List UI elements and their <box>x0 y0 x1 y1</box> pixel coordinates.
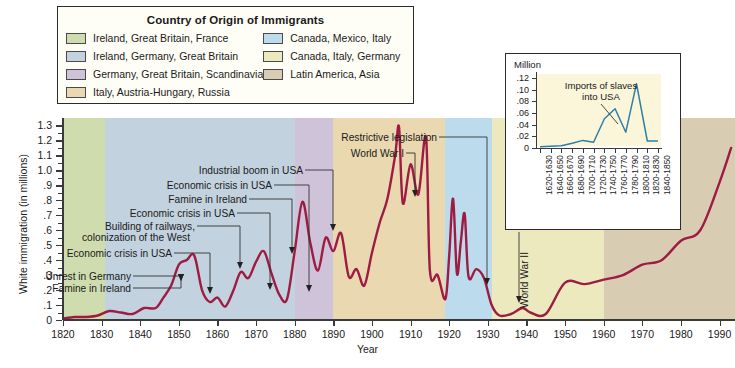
x-axis-tick-label: 1830 <box>90 328 113 340</box>
legend-swatch <box>66 51 86 62</box>
legend-swatch <box>263 69 283 80</box>
annotation-famine-in-ireland-2: Famine in Ireland <box>0 194 247 206</box>
legend-item-label: Latin America, Asia <box>290 69 379 80</box>
annotation-imports-of-slaves: Imports of slaves into USA <box>558 80 644 102</box>
x-axis-tick-label: 1890 <box>322 328 345 340</box>
legend-item-label: Germany, Great Britain, Scandinavia <box>93 69 263 80</box>
x-axis-tick-label: 1930 <box>476 328 499 340</box>
x-axis-tick <box>720 320 721 326</box>
y-axis-tick-label: 1.3 <box>28 119 52 131</box>
x-axis-tick <box>449 320 450 326</box>
legend-item-label: Canada, Mexico, Italy <box>290 33 391 44</box>
x-axis-tick-label: 1940 <box>515 328 538 340</box>
x-axis-tick <box>488 320 489 326</box>
x-axis-tick <box>604 320 605 326</box>
legend-swatch <box>263 33 283 44</box>
y-axis-minor-tick <box>58 313 62 314</box>
legend-item: Ireland, Germany, Great Britain <box>66 50 263 63</box>
x-axis-tick <box>295 320 296 326</box>
legend-column-right: Canada, Mexico, Italy Canada, Italy, Ger… <box>263 32 405 99</box>
x-axis-tick <box>333 320 334 326</box>
x-axis-tick-label: 1820 <box>51 328 74 340</box>
x-axis-tick-label: 1980 <box>669 328 692 340</box>
x-axis-tick-label: 1920 <box>438 328 461 340</box>
legend-item-label: Ireland, Germany, Great Britain <box>93 51 238 62</box>
y-axis-tick-label: .1 <box>28 299 52 311</box>
x-axis-tick <box>102 320 103 326</box>
annotation-world-war-i: World War I <box>0 148 404 160</box>
x-axis-tick <box>372 320 373 326</box>
legend-box: Country of Origin of Immigrants Ireland,… <box>57 6 414 104</box>
y-axis-minor-tick <box>58 268 62 269</box>
x-axis-tick-label: 1870 <box>244 328 267 340</box>
y-axis-minor-tick <box>58 163 62 164</box>
annotation-colonization-of-the-west: colonization of the West <box>0 232 190 244</box>
annotation-industrial-boom-in-usa: Industrial boom in USA <box>0 165 303 177</box>
y-axis-tick <box>56 125 62 126</box>
x-axis-tick <box>256 320 257 326</box>
legend-item: Ireland, Great Britain, France <box>66 32 263 45</box>
annotation-imports-line1: Imports of slaves <box>565 80 638 91</box>
y-axis-tick <box>56 260 62 261</box>
x-axis-tick <box>565 320 566 326</box>
legend-swatch <box>66 69 86 80</box>
legend-item-label: Canada, Italy, Germany <box>290 51 400 62</box>
legend-item-label: Italy, Austria-Hungary, Russia <box>93 87 230 98</box>
x-axis-tick <box>179 320 180 326</box>
x-axis-tick <box>63 320 64 326</box>
x-axis-line <box>63 319 735 321</box>
y-axis-tick-label: 0 <box>28 314 52 326</box>
x-axis-title: Year <box>0 343 735 355</box>
annotation-imports-line2: into USA <box>582 91 620 102</box>
y-axis-tick <box>56 305 62 306</box>
annotation-unrest-in-germany: Unrest in Germany <box>0 271 131 283</box>
x-axis-tick <box>642 320 643 326</box>
x-axis-tick-label: 1880 <box>283 328 306 340</box>
legend-columns: Ireland, Great Britain, France Ireland, … <box>58 32 413 99</box>
x-axis-tick <box>411 320 412 326</box>
y-axis-tick <box>56 245 62 246</box>
annotation-economic-crisis-in-usa-1: Economic crisis in USA <box>0 248 172 260</box>
legend-title: Country of Origin of Immigrants <box>58 14 413 26</box>
x-axis-tick <box>140 320 141 326</box>
legend-swatch <box>263 51 283 62</box>
x-axis-tick-label: 1950 <box>553 328 576 340</box>
x-axis-tick <box>526 320 527 326</box>
x-axis-tick-label: 1860 <box>206 328 229 340</box>
inset-chart-slave-imports: Million 0.02.04.06.08.10.12 1620-1630164… <box>505 53 681 230</box>
legend-item: Italy, Austria-Hungary, Russia <box>66 86 263 99</box>
x-axis-tick-label: 1960 <box>592 328 615 340</box>
x-axis-tick-label: 1900 <box>360 328 383 340</box>
annotation-economic-crisis-in-usa-3: Economic crisis in USA <box>0 180 272 192</box>
y-axis-minor-tick <box>58 178 62 179</box>
legend-column-left: Ireland, Great Britain, France Ireland, … <box>66 32 263 99</box>
x-axis-tick-label: 1970 <box>631 328 654 340</box>
x-axis-tick <box>217 320 218 326</box>
legend-swatch <box>66 87 86 98</box>
annotation-restrictive-legislation: Restrictive legislation <box>0 132 437 144</box>
annotation-world-war-ii: World War II <box>519 252 530 308</box>
legend-item: Canada, Mexico, Italy <box>263 32 405 45</box>
legend-item: Latin America, Asia <box>263 68 405 81</box>
annotation-economic-crisis-in-usa-2: Economic crisis in USA <box>0 208 235 220</box>
annotation-building-of-railways: Building of railways, <box>0 221 195 233</box>
y-axis-tick <box>56 320 62 321</box>
legend-item: Canada, Italy, Germany <box>263 50 405 63</box>
x-axis-tick <box>681 320 682 326</box>
annotation-famine-in-ireland: Famine in Ireland <box>0 283 131 295</box>
x-axis-tick-label: 1840 <box>129 328 152 340</box>
legend-item: Germany, Great Britain, Scandinavia <box>66 68 263 81</box>
x-axis-tick-label: 1990 <box>708 328 731 340</box>
x-axis-tick-label: 1850 <box>167 328 190 340</box>
legend-swatch <box>66 33 86 44</box>
y-axis-minor-tick <box>58 298 62 299</box>
legend-item-label: Ireland, Great Britain, France <box>93 33 228 44</box>
x-axis-tick-label: 1910 <box>399 328 422 340</box>
